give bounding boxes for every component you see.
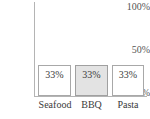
bar-seafood[interactable]: 33%	[38, 65, 71, 96]
bar-slot-bbq: 33%	[75, 2, 108, 96]
bar-slot-pasta: 33%	[112, 2, 144, 96]
x-axis-label-pasta: Pasta	[110, 99, 146, 111]
bar-value-label-seafood: 33%	[39, 69, 70, 80]
x-axis-line	[34, 96, 147, 97]
bar-slot-seafood: 33%	[38, 2, 71, 96]
x-axis-label-seafood: Seafood	[31, 99, 79, 111]
bar-chart: 100% 50% 0% 33% 33% 33% Seafood BBQ Past…	[0, 0, 150, 119]
x-axis-labels: Seafood BBQ Pasta	[35, 99, 147, 117]
bar-value-label-pasta: 33%	[113, 69, 143, 80]
bar-value-label-bbq: 33%	[76, 69, 107, 80]
bar-pasta[interactable]: 33%	[112, 65, 144, 96]
x-axis-label-bbq: BBQ	[75, 99, 108, 111]
plot-area: 33% 33% 33%	[35, 2, 147, 96]
bar-bbq[interactable]: 33%	[75, 65, 108, 96]
